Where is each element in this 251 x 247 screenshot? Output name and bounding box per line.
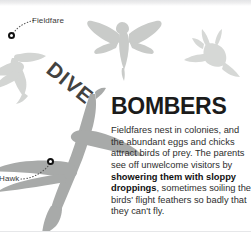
body-text-1: Fieldfares nest in colonies, and the abu… xyxy=(111,125,245,170)
page-root: Fieldfare Hawk DIVE BOMBERS Fieldfares n… xyxy=(0,0,251,247)
callout-marker-hawk xyxy=(47,158,54,165)
fieldfare-silhouette-right xyxy=(182,28,246,86)
callout-marker-fieldfare xyxy=(8,32,15,39)
scan-top-band xyxy=(0,0,251,6)
body-copy: Fieldfares nest in colonies, and the abu… xyxy=(111,125,251,218)
callout-label-fieldfare: Fieldfare xyxy=(32,16,64,25)
callout-leader-line-hawk xyxy=(20,162,54,182)
scan-bottom-margin xyxy=(0,232,251,247)
callout-label-hawk: Hawk xyxy=(0,174,19,183)
fieldfare-silhouette-top xyxy=(86,10,164,82)
headline-bombers: BOMBERS xyxy=(111,93,226,120)
